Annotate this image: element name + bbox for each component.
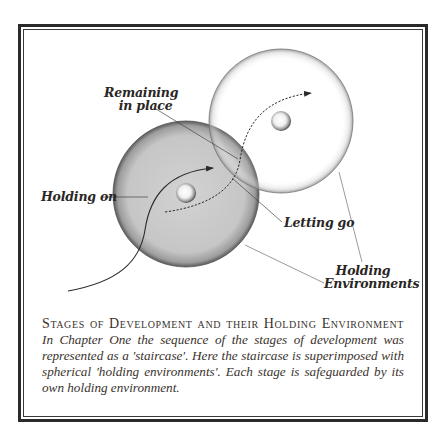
holding-env-leader-lower [245, 245, 324, 283]
lower-stage-core-icon [176, 183, 196, 203]
label-holding-on: Holding on [41, 190, 117, 203]
label-holding-env-line2: Environments [324, 277, 402, 290]
caption-title: Stages of Development and their Holding … [42, 316, 404, 331]
label-holding-environments: Holding Environments [324, 264, 402, 290]
figure-caption: Stages of Development and their Holding … [42, 316, 404, 396]
upper-stage-core-icon [271, 111, 291, 131]
label-remaining-line2: in place [104, 99, 178, 112]
caption-body: In Chapter One the sequence of the stage… [42, 332, 404, 395]
label-remaining-in-place: Remaining in place [104, 86, 178, 112]
label-letting-go: Letting go [284, 216, 354, 229]
